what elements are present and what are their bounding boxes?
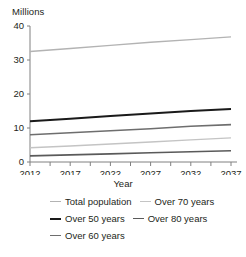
legend-entry[interactable]: Total population bbox=[50, 196, 132, 207]
x-tick-label: 2017 bbox=[60, 168, 81, 175]
series-group bbox=[30, 37, 231, 156]
y-tick-label: 0 bbox=[19, 156, 24, 167]
line-chart-figure: Millions 010203040 201220172022202720322… bbox=[0, 0, 246, 257]
x-tick-label: 2027 bbox=[140, 168, 161, 175]
legend-label: Over 50 years bbox=[65, 213, 125, 224]
legend-line-swatch bbox=[140, 201, 151, 202]
legend-entry[interactable]: Over 50 years bbox=[50, 213, 125, 224]
x-tick-label: 2037 bbox=[220, 168, 241, 175]
axes-group bbox=[27, 26, 237, 166]
y-tick-label: 30 bbox=[13, 54, 24, 65]
legend-label: Total population bbox=[65, 196, 132, 207]
x-tick-label: 2022 bbox=[100, 168, 121, 175]
legend-label: Over 80 years bbox=[148, 213, 208, 224]
plot-area: 010203040 201220172022202720322037 bbox=[0, 0, 246, 175]
y-tick-label: 20 bbox=[13, 88, 24, 99]
x-tick-label: 2032 bbox=[180, 168, 201, 175]
legend-label: Over 60 years bbox=[65, 230, 125, 241]
x-tick-label: 2012 bbox=[19, 168, 40, 175]
legend-row: Total populationOver 70 years bbox=[0, 196, 246, 213]
legend-line-swatch bbox=[50, 201, 61, 202]
series-line bbox=[30, 109, 231, 121]
legend-line-swatch bbox=[133, 218, 144, 219]
series-line bbox=[30, 138, 231, 148]
legend-line-swatch bbox=[50, 235, 61, 236]
y-tick-label: 10 bbox=[13, 122, 24, 133]
legend-row: Over 50 yearsOver 80 years bbox=[0, 213, 246, 230]
legend-label: Over 70 years bbox=[155, 196, 215, 207]
y-tick-label: 40 bbox=[13, 20, 24, 31]
legend-line-swatch bbox=[50, 218, 61, 220]
series-line bbox=[30, 151, 231, 156]
legend-entry[interactable]: Over 80 years bbox=[133, 213, 208, 224]
legend-entry[interactable]: Over 70 years bbox=[140, 196, 215, 207]
chart-legend: Total populationOver 70 yearsOver 50 yea… bbox=[0, 196, 246, 247]
legend-entry[interactable]: Over 60 years bbox=[50, 230, 125, 241]
series-line bbox=[30, 125, 231, 135]
x-tick-labels: 201220172022202720322037 bbox=[19, 168, 241, 175]
legend-row: Over 60 years bbox=[0, 230, 246, 247]
series-line bbox=[30, 37, 231, 52]
y-tick-labels: 010203040 bbox=[13, 20, 24, 167]
x-axis-title: Year bbox=[0, 178, 246, 189]
